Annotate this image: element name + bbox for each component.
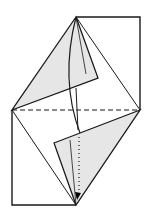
origami-diagram bbox=[0, 0, 151, 217]
